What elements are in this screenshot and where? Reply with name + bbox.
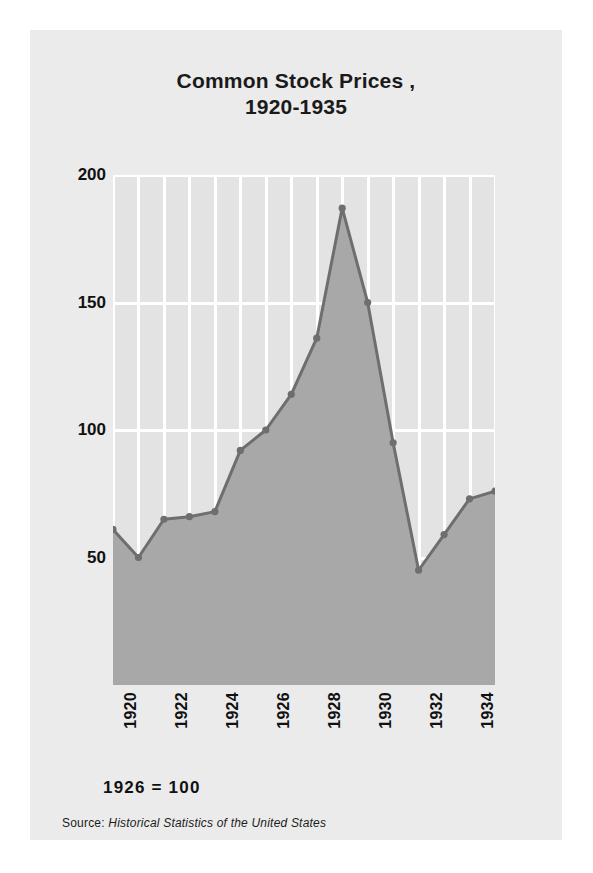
data-point-marker	[186, 513, 193, 520]
y-axis-tick-label: 100	[46, 421, 106, 438]
source-label: Source:	[62, 816, 105, 830]
data-point-marker	[160, 516, 167, 523]
figure-card: Common Stock Prices , 1920-1935 50100150…	[30, 30, 562, 840]
chart-plot-area	[113, 175, 495, 685]
data-point-marker	[415, 567, 422, 574]
source-title: Historical Statistics of the United Stat…	[108, 816, 326, 830]
data-point-marker	[390, 439, 397, 446]
x-axis: 19201922192419261928193019321934	[113, 692, 495, 764]
x-axis-tick-label: 1926	[275, 692, 293, 764]
data-point-marker	[339, 205, 346, 212]
source-note: Source: Historical Statistics of the Uni…	[62, 816, 326, 830]
data-point-marker	[288, 391, 295, 398]
data-point-marker	[262, 426, 269, 433]
chart-title-line2: 1920-1935	[30, 94, 562, 120]
x-axis-tick-label: 1932	[428, 692, 446, 764]
data-point-marker	[237, 447, 244, 454]
x-axis-tick-label: 1934	[479, 692, 497, 764]
data-point-marker	[135, 554, 142, 561]
x-axis-tick-label: 1928	[326, 692, 344, 764]
y-axis-tick-label: 200	[46, 166, 106, 183]
y-axis-tick-label: 150	[46, 294, 106, 311]
data-point-marker	[211, 508, 218, 515]
data-point-marker	[466, 495, 473, 502]
x-axis-tick-label: 1922	[173, 692, 191, 764]
chart-title-line1: Common Stock Prices ,	[177, 69, 416, 92]
x-axis-tick-label: 1920	[122, 692, 140, 764]
y-axis-tick-label: 50	[46, 549, 106, 566]
base-year-note: 1926 = 100	[103, 778, 201, 798]
y-axis: 50100150200	[38, 175, 106, 685]
page-title: Common Stock Prices , 1920-1935	[30, 68, 562, 120]
area-chart	[113, 175, 495, 685]
x-axis-tick-label: 1924	[224, 692, 242, 764]
x-axis-tick-label: 1930	[377, 692, 395, 764]
data-point-marker	[364, 299, 371, 306]
data-point-marker	[313, 335, 320, 342]
data-point-marker	[440, 531, 447, 538]
